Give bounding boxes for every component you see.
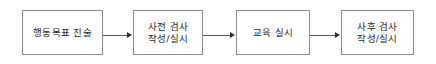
process-node-label-line: 작성/실시 <box>357 33 397 44</box>
flow-connector-1 <box>103 31 133 40</box>
process-flow-diagram: 행동목표 진술 사전 검사 작성/실시 교육 실시 사후 검사 작성/실시 <box>0 0 436 64</box>
process-node-label-line: 행동목표 진술 <box>33 27 91 38</box>
process-node-pretest: 사전 검사 작성/실시 <box>133 10 203 55</box>
process-node-label-line: 교육 실시 <box>253 27 293 38</box>
arrow-right-icon <box>335 32 340 38</box>
process-node-label-line: 작성/실시 <box>148 33 188 44</box>
process-node-label-line: 사후 검사 <box>357 21 397 32</box>
connector-line <box>310 35 336 36</box>
flow-connector-3 <box>310 31 341 40</box>
process-node-behavioral-objective: 행동목표 진술 <box>22 10 103 55</box>
flow-connector-2 <box>203 31 236 40</box>
process-node-label-line: 사전 검사 <box>148 21 188 32</box>
connector-line <box>103 35 128 36</box>
process-node-posttest: 사후 검사 작성/실시 <box>341 10 414 55</box>
connector-line <box>203 35 231 36</box>
process-node-instruction: 교육 실시 <box>236 10 310 55</box>
arrow-right-icon <box>127 32 132 38</box>
arrow-right-icon <box>230 32 235 38</box>
